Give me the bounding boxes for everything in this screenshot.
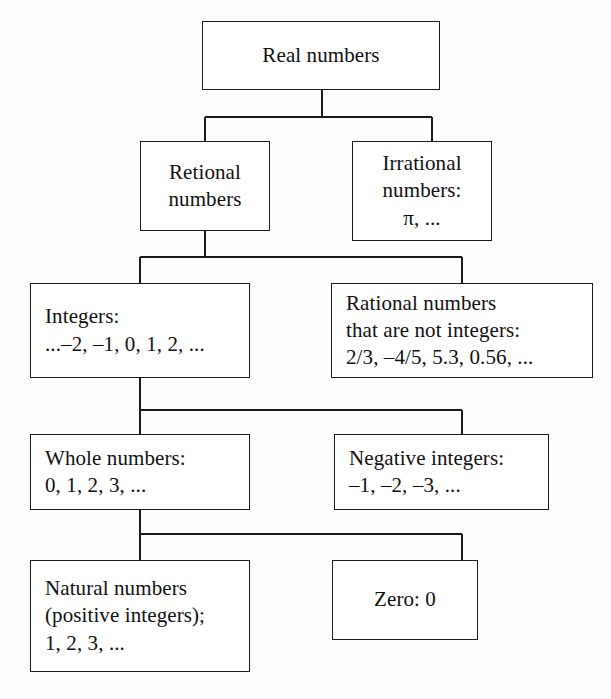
- node-line: Negative integers:: [349, 445, 504, 472]
- node-line: (positive integers);: [45, 602, 205, 629]
- node-line: Rational numbers: [346, 290, 496, 317]
- node-line: 0, 1, 2, 3, ...: [45, 472, 146, 499]
- number-classification-diagram: Real numbers Retional numbers Irrational…: [0, 0, 611, 699]
- node-irrational-numbers: Irrational numbers: π, ...: [352, 141, 492, 241]
- edge-whole-to-children: [140, 510, 462, 560]
- node-line: ...–2, –1, 0, 1, 2, ...: [45, 331, 205, 358]
- node-integers: Integers: ...–2, –1, 0, 1, 2, ...: [30, 283, 250, 378]
- node-line: Whole numbers:: [45, 445, 186, 472]
- node-line: 1, 2, 3, ...: [45, 630, 125, 657]
- edge-real-to-children: [205, 90, 432, 141]
- node-line: Retional: [169, 159, 241, 186]
- node-natural-numbers: Natural numbers (positive integers); 1, …: [30, 560, 250, 672]
- node-line: Irrational: [382, 150, 461, 177]
- node-line: 2/3, –4/5, 5.3, 0.56, ...: [346, 344, 533, 371]
- node-line: numbers: [168, 186, 241, 213]
- node-real-numbers: Real numbers: [202, 21, 440, 90]
- edge-integers-to-children: [140, 378, 462, 434]
- node-line: Zero: 0: [374, 586, 436, 613]
- node-line: Natural numbers: [45, 575, 187, 602]
- node-negative-integers: Negative integers: –1, –2, –3, ...: [334, 434, 549, 510]
- node-rational-not-integers: Rational numbers that are not integers: …: [331, 283, 593, 378]
- node-whole-numbers: Whole numbers: 0, 1, 2, 3, ...: [30, 434, 250, 510]
- node-line: π, ...: [403, 205, 440, 232]
- node-line: Integers:: [45, 303, 119, 330]
- node-line: numbers:: [383, 177, 462, 204]
- node-line: that are not integers:: [346, 317, 520, 344]
- node-zero: Zero: 0: [332, 560, 478, 640]
- node-line: Real numbers: [262, 42, 379, 69]
- node-line: –1, –2, –3, ...: [349, 472, 461, 499]
- node-rational-numbers: Retional numbers: [140, 141, 270, 231]
